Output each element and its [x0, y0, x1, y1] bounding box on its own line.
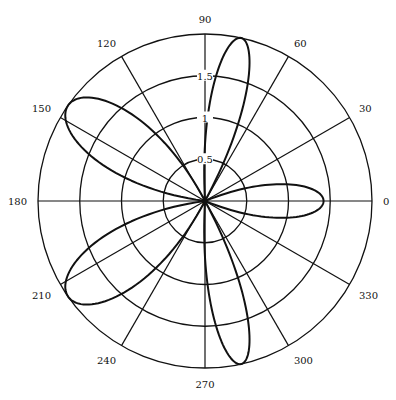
radial-tick-label: 1 [202, 113, 208, 124]
angle-tick-label: 0 [383, 196, 389, 207]
angle-tick-label: 240 [97, 355, 116, 366]
grid-spoke [60, 118, 205, 202]
angle-tick-label: 150 [32, 103, 51, 114]
angle-tick-label: 270 [195, 379, 214, 390]
angle-tick-label: 30 [359, 103, 372, 114]
radial-tick-label: 0.5 [197, 154, 213, 165]
angle-tick-label: 90 [199, 14, 212, 25]
angle-tick-label: 180 [8, 196, 27, 207]
angle-tick-label: 120 [97, 38, 116, 49]
grid-spoke [205, 56, 289, 201]
radial-tick-label: 1.5 [197, 71, 213, 82]
grid-spoke [205, 201, 289, 346]
angle-tick-label: 210 [32, 290, 51, 301]
grid-spoke [60, 201, 205, 285]
center-label: 0 [202, 196, 208, 207]
angle-tick-label: 60 [294, 38, 307, 49]
angle-tick-label: 300 [294, 355, 313, 366]
polar-chart: 0306090120150180210240270300330 0.511.50 [0, 0, 396, 400]
angle-tick-label: 330 [359, 290, 378, 301]
grid-spoke [205, 201, 350, 285]
grid-spoke [205, 118, 350, 202]
